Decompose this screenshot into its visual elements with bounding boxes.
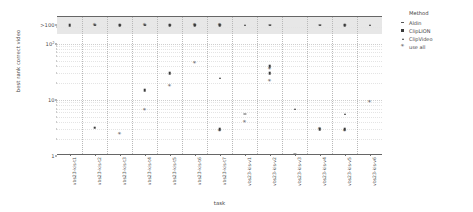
- x-axis-tick-label: vbs23-kis-t3: [122, 157, 127, 185]
- point-marker-triangle: [294, 108, 296, 110]
- legend-item-cliplion[interactable]: ClipLION: [396, 27, 468, 35]
- y-axis-minor-tick-mark: [56, 73, 57, 74]
- horizontal-gridline: [57, 44, 382, 45]
- y-axis-tick-label: 10: [48, 97, 55, 103]
- point-marker-dash: [401, 22, 404, 23]
- horizontal-gridline: [57, 56, 382, 57]
- x-axis-tick-mark: [345, 154, 346, 156]
- vertical-gridline: [82, 17, 83, 154]
- chart-figure: best rank correct video ✳✳✳✳✳✳✳✳✳✳✳✳✳✳✳✳…: [0, 0, 473, 212]
- horizontal-gridline: [57, 49, 382, 50]
- x-axis-tick-mark: [120, 154, 121, 156]
- legend-marker-star-icon: ✳: [396, 44, 409, 49]
- vertical-gridline: [132, 17, 133, 154]
- point-marker-star: ✳: [143, 23, 147, 28]
- horizontal-gridline: [57, 52, 382, 53]
- x-axis-tick-mark: [95, 154, 96, 156]
- y-axis-tick-label: 1: [51, 153, 54, 159]
- legend-item-use-all[interactable]: ✳use all: [396, 43, 468, 51]
- point-marker-star: ✳: [218, 129, 222, 134]
- y-axis-minor-tick-mark: [56, 105, 57, 106]
- horizontal-gridline: [57, 102, 382, 103]
- point-marker-square: [343, 24, 346, 27]
- point-marker-triangle: [402, 38, 404, 40]
- point-marker-star: ✳: [343, 129, 347, 134]
- point-marker-square: [401, 29, 404, 32]
- y-axis-tick-mark: [55, 156, 57, 157]
- point-marker-star: ✳: [143, 108, 147, 113]
- x-axis-tick-mark: [370, 154, 371, 156]
- horizontal-gridline: [57, 73, 382, 74]
- point-marker-star: ✳: [318, 127, 322, 132]
- point-marker-star: ✳: [243, 120, 247, 125]
- point-marker-square: [168, 72, 171, 75]
- point-marker-square: [68, 24, 71, 27]
- point-marker-star: ✳: [118, 131, 122, 136]
- legend-item-aldin[interactable]: Aldin: [396, 19, 468, 27]
- x-axis-tick-label: vbs23-kis-t5: [172, 157, 177, 185]
- x-axis-tick-mark: [170, 154, 171, 156]
- x-axis-tick-label: vbs23-kis-t2: [97, 157, 102, 185]
- point-marker-square: [143, 89, 146, 92]
- point-marker-star: ✳: [268, 67, 272, 72]
- horizontal-gridline: [57, 139, 382, 140]
- y-axis-minor-tick-mark: [56, 52, 57, 53]
- y-axis-minor-tick-mark: [56, 82, 57, 83]
- horizontal-gridline: [57, 112, 382, 113]
- vertical-gridline: [257, 17, 258, 154]
- horizontal-gridline: [57, 117, 382, 118]
- x-axis-tick-mark: [145, 154, 146, 156]
- x-axis-tick-label: vbs23-kis-v4: [322, 157, 327, 186]
- y-axis-minor-tick-mark: [56, 56, 57, 57]
- point-marker-triangle: [119, 24, 121, 26]
- vertical-gridline: [207, 17, 208, 154]
- legend-marker-square-icon: [396, 29, 409, 32]
- y-axis-minor-tick-mark: [56, 102, 57, 103]
- legend-item-label: Aldin: [409, 20, 422, 26]
- y-axis-tick-mark: [55, 43, 57, 44]
- x-axis-tick-mark: [245, 154, 246, 156]
- y-axis-minor-tick-mark: [56, 112, 57, 113]
- vertical-gridline: [332, 17, 333, 154]
- y-axis-minor-tick-mark: [56, 122, 57, 123]
- legend-item-clipvideo[interactable]: ClipVideo: [396, 35, 468, 43]
- y-axis-minor-tick-mark: [56, 26, 57, 27]
- horizontal-gridline: [57, 105, 382, 106]
- point-marker-triangle: [169, 24, 171, 26]
- x-axis-title: task: [57, 200, 382, 206]
- point-marker-star: ✳: [93, 23, 97, 28]
- vertical-gridline: [157, 17, 158, 154]
- point-marker-star: ✳: [368, 100, 372, 105]
- point-marker-dash: [243, 114, 246, 115]
- legend: Method AldinClipLIONClipVideo✳use all: [396, 10, 468, 51]
- legend-marker-dash-icon: [396, 22, 409, 23]
- horizontal-gridline: [57, 122, 382, 123]
- y-axis-minor-tick-mark: [56, 129, 57, 130]
- vertical-gridline: [357, 17, 358, 154]
- x-axis-tick-label: vbs23-kis-v3: [297, 157, 302, 186]
- y-axis-title: best rank correct video: [15, 1, 21, 121]
- x-axis-tick-label: vbs23-kis-v5: [347, 157, 352, 186]
- y-axis-minor-tick-mark: [56, 60, 57, 61]
- x-axis-tick-mark: [295, 154, 296, 156]
- vertical-gridline: [282, 17, 283, 154]
- legend-item-label: ClipVideo: [409, 36, 432, 42]
- x-axis-tick-mark: [270, 154, 271, 156]
- x-axis-tick-label: vbs23-kis-v1: [247, 157, 252, 186]
- plot-inner: ✳✳✳✳✳✳✳✳✳✳✳✳✳✳✳✳✳: [57, 17, 382, 154]
- point-marker-square: [268, 72, 271, 75]
- point-marker-triangle: [344, 113, 346, 115]
- vertical-gridline: [182, 17, 183, 154]
- y-axis-minor-tick-mark: [56, 49, 57, 50]
- y-axis-minor-tick-mark: [56, 46, 57, 47]
- legend-item-label: use all: [409, 44, 425, 50]
- y-axis-tick-label: >100: [40, 22, 54, 28]
- point-marker-star: ✳: [401, 44, 405, 49]
- horizontal-gridline: [57, 109, 382, 110]
- point-marker-star: ✳: [193, 61, 197, 66]
- point-marker-star: ✳: [168, 83, 172, 88]
- point-marker-triangle: [369, 24, 371, 26]
- x-axis-tick-label: vbs23-kis-t6: [197, 157, 202, 185]
- horizontal-gridline: [57, 100, 382, 101]
- vertical-gridline: [307, 17, 308, 154]
